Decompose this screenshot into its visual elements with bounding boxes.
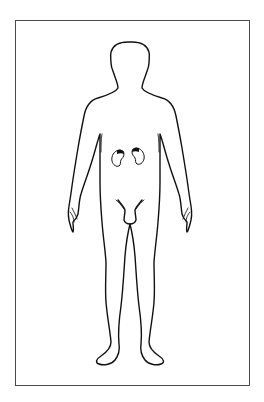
right-torso-line [158, 134, 159, 152]
body-outline [68, 42, 191, 365]
diagram-canvas [0, 0, 264, 402]
left-hand-detail [70, 208, 77, 222]
hip-line-right [136, 200, 144, 209]
right-hand-detail [183, 208, 190, 222]
groin-outline [118, 200, 142, 224]
hip-line-left [116, 200, 124, 209]
right-kidney-icon [132, 148, 144, 164]
left-kidney-icon [112, 150, 124, 166]
human-body-figure [0, 0, 264, 402]
left-torso-line [101, 134, 102, 152]
